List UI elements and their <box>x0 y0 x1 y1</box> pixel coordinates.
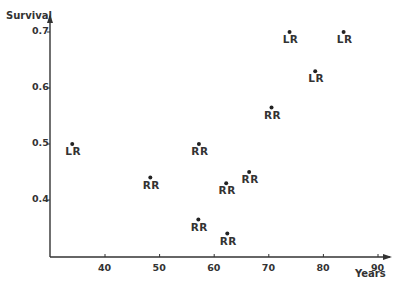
y-axis-label: Survival <box>6 10 52 21</box>
data-point-label: RR <box>191 221 208 233</box>
data-point-label: LR <box>308 72 324 84</box>
y-tick-label: 0.7 <box>32 25 49 36</box>
data-point-label: LR <box>283 33 299 45</box>
data-point-label: RR <box>220 235 237 247</box>
x-tick-label: 80 <box>316 262 329 273</box>
data-point-label: RR <box>143 179 160 191</box>
x-axis-arrow-icon <box>383 254 392 260</box>
x-tick-label: 70 <box>262 262 275 273</box>
data-point-label: RR <box>219 184 236 196</box>
x-tick-label: 90 <box>371 262 384 273</box>
y-tick-label: 0.6 <box>32 81 49 92</box>
x-tick-label: 60 <box>207 262 220 273</box>
data-point-label: LR <box>337 33 353 45</box>
x-tick-label: 40 <box>98 262 111 273</box>
data-point-label: RR <box>242 173 259 185</box>
x-tick-label: 50 <box>153 262 166 273</box>
y-tick-label: 0.4 <box>32 193 49 204</box>
scatter-chart: Survival Years 4050607080900.40.50.60.7 … <box>0 0 400 290</box>
data-point-label: RR <box>264 109 281 121</box>
y-tick-label: 0.5 <box>32 137 49 148</box>
data-point-label: RR <box>191 145 208 157</box>
data-point-label: LR <box>65 145 81 157</box>
